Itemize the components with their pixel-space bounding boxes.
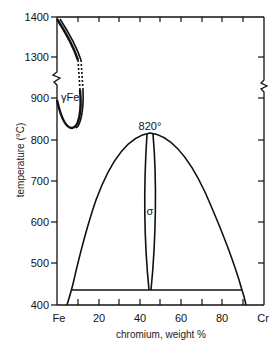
y-axis-title: temperature (°C) [15, 123, 26, 198]
peak-temperature-label: 820° [139, 120, 162, 132]
x-axis-title: chromium, weight % [116, 329, 206, 340]
x-tick-fe: Fe [53, 312, 66, 324]
y-tick-400: 400 [31, 299, 49, 311]
y-tick-600: 600 [31, 216, 49, 228]
plot-frame [53, 17, 267, 305]
y-tick-1400: 1400 [25, 11, 49, 23]
sigma-phase-label: σ [147, 205, 154, 217]
y-tick-800: 800 [31, 134, 49, 146]
y-axis-ticks [51, 17, 57, 305]
y-tick-900: 900 [31, 92, 49, 104]
sigma-dome-curve [67, 133, 246, 305]
x-tick-60: 60 [175, 312, 187, 324]
x-tick-labels: Fe 20 40 60 80 Cr [53, 312, 270, 324]
gamma-fe-label: γFe [61, 91, 79, 103]
phase-diagram: 1400 1300 900 800 700 600 500 400 Fe 20 … [0, 0, 278, 354]
x-tick-20: 20 [93, 312, 105, 324]
x-axis-ticks [78, 299, 243, 305]
y-tick-500: 500 [31, 257, 49, 269]
x-tick-40: 40 [134, 312, 146, 324]
x-tick-80: 80 [216, 312, 228, 324]
y-tick-labels: 1400 1300 900 800 700 600 500 400 [25, 11, 49, 311]
y-tick-1300: 1300 [25, 51, 49, 63]
y-tick-700: 700 [31, 175, 49, 187]
gamma-loop [57, 19, 83, 128]
top-axis-ticks [78, 17, 243, 22]
x-tick-cr: Cr [257, 312, 269, 324]
